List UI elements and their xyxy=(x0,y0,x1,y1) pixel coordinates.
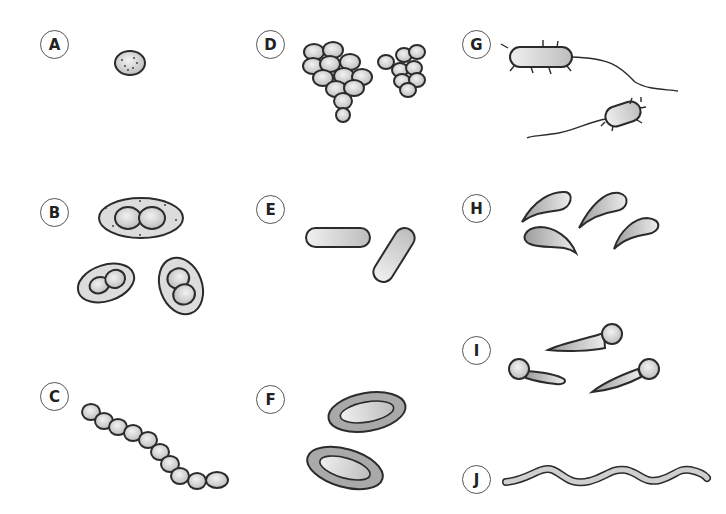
bacilli-e xyxy=(306,224,418,285)
staphylococci-d xyxy=(303,42,425,122)
capsulated-rods-f xyxy=(302,387,408,497)
spirochaete-j xyxy=(506,469,707,482)
vibrios-h xyxy=(522,192,658,253)
drumstick-rods-i xyxy=(509,324,659,392)
coccus-a xyxy=(115,51,145,75)
bacteria-illustration xyxy=(0,0,726,514)
streptococci-c xyxy=(82,404,228,489)
flagellated-rods-g xyxy=(501,40,678,138)
diplococci-b xyxy=(73,198,211,320)
